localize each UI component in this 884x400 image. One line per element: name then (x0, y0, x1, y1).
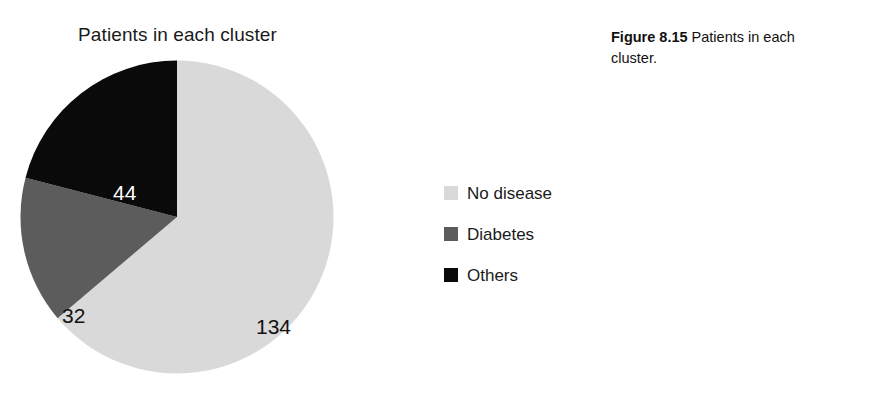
legend-swatch-icon-others (444, 268, 458, 282)
pie-slice-value-no-disease: 134 (256, 316, 291, 337)
figure-caption-number: Figure 8.15 (611, 29, 688, 45)
legend-item-diabetes: Diabetes (444, 219, 552, 249)
legend-item-others: Others (444, 260, 552, 290)
figure-caption: Figure 8.15 Patients in each cluster. (611, 27, 826, 68)
chart-title: Patients in each cluster (0, 24, 355, 46)
pie-slice-value-diabetes: 32 (62, 305, 85, 326)
legend-label-diabetes: Diabetes (467, 226, 534, 243)
figure-area: Patients in each cluster 134 32 44 No di… (0, 0, 600, 400)
legend-item-no-disease: No disease (444, 178, 552, 208)
legend-swatch-icon-no-disease (444, 186, 458, 200)
pie-slice-value-others: 44 (113, 182, 136, 203)
pie-chart: 134 32 44 (20, 60, 334, 374)
chart-legend: No disease Diabetes Others (444, 178, 552, 290)
legend-label-no-disease: No disease (467, 185, 552, 202)
legend-swatch-icon-diabetes (444, 227, 458, 241)
legend-label-others: Others (467, 267, 518, 284)
